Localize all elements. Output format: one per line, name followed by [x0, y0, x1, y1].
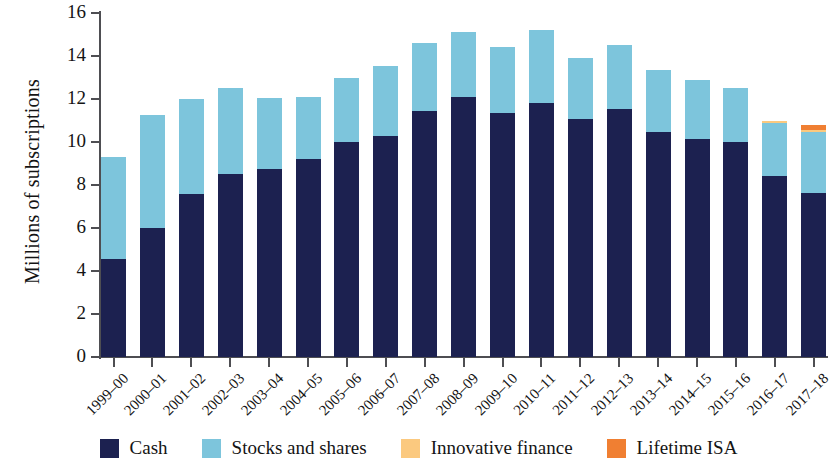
bar-segment-cash	[568, 119, 593, 357]
x-axis-tick	[113, 358, 115, 367]
legend-swatch-icon	[401, 439, 420, 458]
bar-segment-cash	[646, 132, 671, 357]
y-axis-tick-label: 4	[26, 260, 86, 279]
bar-segment-stocks-and-shares	[373, 66, 398, 136]
bar-2014-15[interactable]	[685, 80, 710, 357]
legend-item-innovative-finance[interactable]: Innovative finance	[401, 437, 573, 459]
bar-2001-02[interactable]	[179, 99, 204, 357]
bar-segment-stocks-and-shares	[296, 97, 321, 159]
bar-segment-cash	[801, 193, 826, 357]
bar-segment-cash	[723, 142, 748, 357]
x-axis-tick	[151, 358, 153, 367]
chart-legend: CashStocks and sharesInnovative financeL…	[0, 437, 837, 459]
y-axis-tick	[91, 98, 100, 100]
bar-2003-04[interactable]	[257, 98, 282, 357]
y-axis-tick	[91, 55, 100, 57]
y-axis-tick	[91, 184, 100, 186]
bar-2011-12[interactable]	[568, 58, 593, 357]
bar-2009-10[interactable]	[490, 47, 515, 357]
legend-label: Cash	[130, 437, 168, 459]
bar-2015-16[interactable]	[723, 88, 748, 357]
bar-2002-03[interactable]	[218, 88, 243, 357]
y-axis-tick	[91, 227, 100, 229]
x-axis-tick	[190, 358, 192, 367]
bar-segment-stocks-and-shares	[685, 80, 710, 139]
x-axis-tick	[463, 358, 465, 367]
bar-2004-05[interactable]	[296, 97, 321, 357]
bar-2013-14[interactable]	[646, 70, 671, 357]
bar-segment-stocks-and-shares	[490, 47, 515, 113]
bar-segment-stocks-and-shares	[723, 88, 748, 142]
y-axis-tick-label: 14	[26, 45, 86, 64]
bar-segment-stocks-and-shares	[101, 157, 126, 259]
bar-2017-18[interactable]	[801, 125, 826, 357]
bar-2012-13[interactable]	[607, 45, 632, 357]
y-axis-tick-label: 8	[26, 174, 86, 193]
bar-segment-cash	[179, 194, 204, 357]
bar-2000-01[interactable]	[140, 115, 165, 357]
x-axis-tick	[424, 358, 426, 367]
x-axis-tick	[307, 358, 309, 367]
legend-swatch-icon	[100, 439, 119, 458]
bar-2008-09[interactable]	[451, 32, 476, 357]
legend-label: Stocks and shares	[232, 437, 367, 459]
bar-segment-stocks-and-shares	[218, 88, 243, 174]
bar-segment-cash	[685, 139, 710, 357]
bar-segment-stocks-and-shares	[568, 58, 593, 119]
x-axis-tick	[657, 358, 659, 367]
stacked-bar-chart: Millions of subscriptions 0246810121416 …	[0, 0, 837, 473]
legend-swatch-icon	[202, 439, 221, 458]
legend-item-lifetime-isa[interactable]: Lifetime ISA	[607, 437, 738, 459]
bar-segment-cash	[451, 97, 476, 357]
bar-segment-cash	[296, 159, 321, 357]
x-axis-tick	[696, 358, 698, 367]
bar-segment-cash	[373, 136, 398, 357]
bar-segment-cash	[101, 259, 126, 357]
x-axis-tick	[385, 358, 387, 367]
bar-segment-stocks-and-shares	[529, 30, 554, 103]
bar-segment-stocks-and-shares	[762, 123, 787, 177]
y-axis-tick-labels: 0246810121416	[16, 0, 86, 473]
bar-2016-17[interactable]	[762, 121, 787, 357]
bar-segment-cash	[607, 109, 632, 357]
bar-segment-cash	[529, 103, 554, 357]
y-axis-tick-label: 2	[26, 303, 86, 322]
x-axis-tick	[346, 358, 348, 367]
x-axis-tick	[735, 358, 737, 367]
bar-segment-stocks-and-shares	[451, 32, 476, 97]
x-axis-tick	[268, 358, 270, 367]
bar-segment-cash	[412, 111, 437, 357]
bar-segment-cash	[140, 228, 165, 357]
bar-segment-cash	[218, 174, 243, 357]
y-axis-tick-label: 16	[26, 2, 86, 21]
bar-segment-cash	[334, 142, 359, 357]
bar-segment-stocks-and-shares	[646, 70, 671, 132]
bar-2006-07[interactable]	[373, 66, 398, 357]
bar-segment-stocks-and-shares	[412, 43, 437, 111]
bar-segment-stocks-and-shares	[334, 78, 359, 143]
bar-2007-08[interactable]	[412, 43, 437, 357]
bar-segment-stocks-and-shares	[140, 115, 165, 228]
x-axis-tick	[813, 358, 815, 367]
bar-2005-06[interactable]	[334, 78, 359, 358]
x-axis-tick	[540, 358, 542, 367]
y-axis-tick-label: 10	[26, 131, 86, 150]
x-axis-tick	[229, 358, 231, 367]
y-axis-tick	[91, 141, 100, 143]
bar-segment-stocks-and-shares	[801, 132, 826, 192]
y-axis-tick	[91, 270, 100, 272]
y-axis-tick-label: 12	[26, 88, 86, 107]
y-axis-tick	[91, 313, 100, 315]
legend-item-cash[interactable]: Cash	[100, 437, 168, 459]
x-axis-tick	[579, 358, 581, 367]
y-axis-tick	[91, 12, 100, 14]
y-axis-tick-label: 6	[26, 217, 86, 236]
legend-label: Innovative finance	[431, 437, 573, 459]
bar-1999-00[interactable]	[101, 157, 126, 357]
legend-item-stocks-and-shares[interactable]: Stocks and shares	[202, 437, 367, 459]
bar-segment-cash	[762, 176, 787, 357]
bar-segment-cash	[257, 169, 282, 357]
bar-2010-11[interactable]	[529, 30, 554, 357]
bar-segment-stocks-and-shares	[257, 98, 282, 169]
bar-segment-cash	[490, 113, 515, 357]
